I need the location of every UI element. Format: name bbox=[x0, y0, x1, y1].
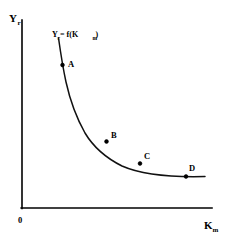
x-axis-label-subscript: m bbox=[213, 226, 219, 234]
curve-yr-of-km bbox=[59, 38, 206, 177]
data-point-marker-d bbox=[184, 175, 188, 179]
data-point-marker-c bbox=[138, 162, 142, 166]
data-point-label-c: C bbox=[144, 151, 150, 161]
data-point-label-d: D bbox=[189, 163, 195, 173]
data-point-label-a: A bbox=[68, 59, 75, 69]
data-point-label-b: B bbox=[111, 130, 117, 140]
y-axis-label: Y bbox=[9, 12, 17, 24]
data-point-marker-a bbox=[61, 63, 65, 67]
data-point-marker-b bbox=[105, 140, 109, 144]
chart-canvas: Y r K m 0 Y r = f(K m ) A B C D bbox=[0, 0, 230, 237]
y-axis-label-subscript: r bbox=[18, 19, 21, 27]
curve-equation-fk: = f(K bbox=[60, 30, 79, 39]
figure-container: Y r K m 0 Y r = f(K m ) A B C D bbox=[0, 0, 230, 237]
origin-label: 0 bbox=[18, 215, 22, 225]
curve-equation-close-paren: ) bbox=[96, 30, 99, 39]
